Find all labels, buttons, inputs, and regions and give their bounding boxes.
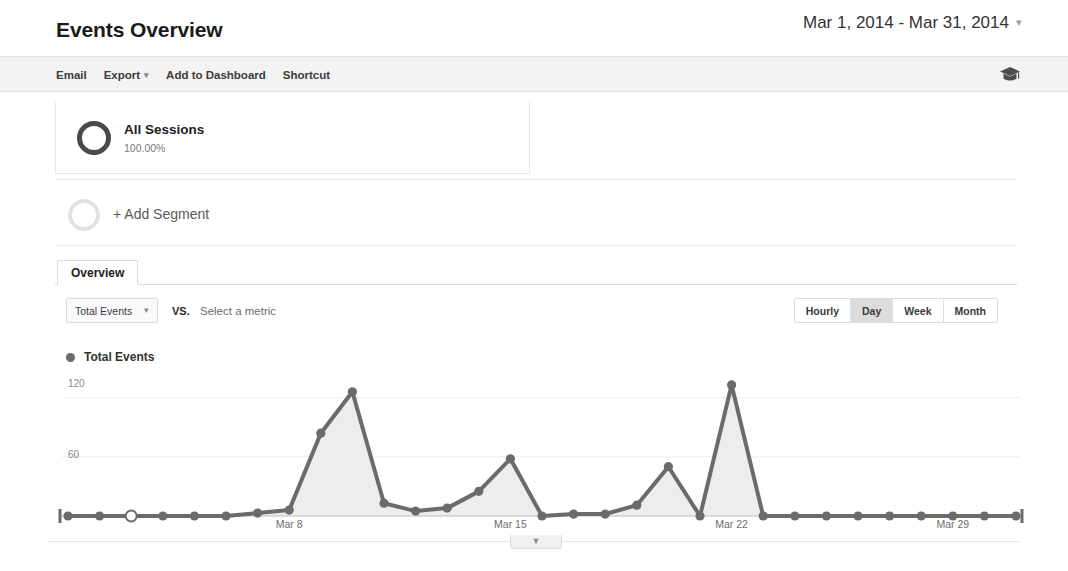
page-header: Events Overview Mar 1, 2014 - Mar 31, 20… [0, 0, 1068, 54]
events-overview-page: Events Overview Mar 1, 2014 - Mar 31, 20… [0, 0, 1068, 571]
y-axis-tick-60: 60 [68, 449, 79, 460]
chevron-down-icon: ▼ [511, 534, 561, 548]
chart-legend: Total Events [66, 350, 154, 364]
x-axis-tick-mar-15: Mar 15 [494, 518, 527, 530]
x-axis-tick-mar-29: Mar 29 [936, 518, 969, 530]
graduation-cap-icon[interactable] [999, 66, 1021, 84]
date-range-picker[interactable]: Mar 1, 2014 - Mar 31, 2014▾ [803, 13, 1022, 33]
segment-bar: All Sessions 100.00% + Add Segment [0, 93, 1068, 245]
page-title: Events Overview [56, 18, 223, 42]
select-compare-metric-link[interactable]: Select a metric [200, 305, 276, 317]
add-segment-ring-icon [68, 199, 100, 231]
collapse-chart-handle[interactable]: ▼ [510, 535, 562, 549]
x-axis-tick-mar-8: Mar 8 [276, 518, 303, 530]
add-to-dashboard-button[interactable]: Add to Dashboard [166, 69, 266, 81]
y-axis-tick-120: 120 [68, 378, 85, 389]
granularity-week[interactable]: Week [893, 299, 943, 322]
chevron-down-icon: ▾ [144, 305, 149, 315]
segment-divider [55, 179, 1017, 180]
x-axis-tick-mar-22: Mar 22 [715, 518, 748, 530]
date-range-label: Mar 1, 2014 - Mar 31, 2014 [803, 13, 1009, 32]
segment-name: All Sessions [124, 122, 204, 137]
tab-strip: Overview [0, 260, 1068, 285]
tab-underline [55, 284, 1017, 285]
granularity-hourly[interactable]: Hourly [795, 299, 851, 322]
legend-series-label: Total Events [84, 350, 154, 364]
shortcut-button[interactable]: Shortcut [283, 69, 330, 81]
add-segment-button[interactable]: + Add Segment [55, 191, 375, 241]
chart-canvas [0, 370, 1068, 535]
add-segment-label: + Add Segment [113, 206, 209, 222]
vs-label: VS. [172, 305, 190, 317]
granularity-day[interactable]: Day [851, 299, 893, 322]
segment-bottom-divider [55, 245, 1017, 246]
tab-overview[interactable]: Overview [57, 260, 138, 285]
segment-percent: 100.00% [124, 142, 165, 154]
export-button[interactable]: Export▾ [104, 69, 149, 81]
toolbar-items: Email Export▾ Add to Dashboard Shortcut [56, 57, 330, 93]
granularity-month[interactable]: Month [944, 299, 998, 322]
metric-controls: Total Events ▾ VS. Select a metric Hourl… [0, 298, 1068, 328]
metric-select[interactable]: Total Events ▾ [66, 298, 158, 323]
email-button[interactable]: Email [56, 69, 87, 81]
legend-dot-icon [66, 353, 75, 362]
export-label: Export [104, 69, 140, 81]
action-toolbar: Email Export▾ Add to Dashboard Shortcut [0, 56, 1068, 92]
chevron-down-icon: ▾ [144, 70, 149, 80]
chevron-down-icon: ▾ [1016, 16, 1022, 29]
metric-select-label: Total Events [75, 305, 132, 317]
events-timeseries-chart[interactable]: 120 60 Mar 8Mar 15Mar 22Mar 29 [0, 370, 1068, 535]
granularity-toggle-group: Hourly Day Week Month [794, 298, 998, 323]
segment-ring-icon [77, 121, 111, 155]
segment-all-sessions[interactable]: All Sessions 100.00% [55, 102, 530, 174]
